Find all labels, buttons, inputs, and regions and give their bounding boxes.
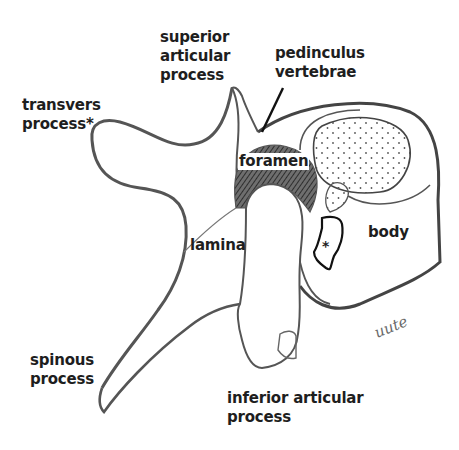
label-pedinculus-vertebrae: pedinculus vertebrae xyxy=(275,44,365,82)
label-foramen: foramen xyxy=(238,153,309,170)
label-spinous-process: spinous process xyxy=(30,351,94,389)
label-body: body xyxy=(368,223,409,242)
asterisk-marker: * xyxy=(322,238,329,254)
pedinculus-pointer-line xyxy=(262,88,283,132)
costal-facet xyxy=(326,183,349,212)
label-transvers-process: transvers process* xyxy=(22,96,101,134)
label-inferior-articular-process: inferior articular process xyxy=(227,389,363,427)
label-superior-articular-process: superior articular process xyxy=(160,28,230,85)
endplate-dotted-area xyxy=(314,118,411,193)
label-lamina: lamina xyxy=(190,236,246,255)
inferior-articular-outline xyxy=(238,184,303,368)
